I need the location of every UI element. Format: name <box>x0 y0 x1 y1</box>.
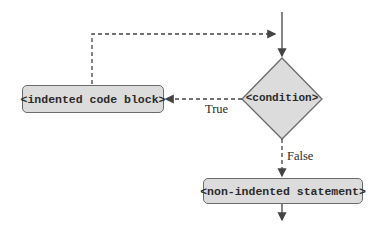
non-indented-statement-node: <non-indented statement> <box>203 178 363 204</box>
true-label: True <box>205 102 228 117</box>
false-label: False <box>287 149 313 164</box>
loop-back-arrow <box>92 34 275 84</box>
indented-code-block-node: <indented code block> <box>22 85 164 113</box>
condition-label: <condition> <box>245 92 319 104</box>
